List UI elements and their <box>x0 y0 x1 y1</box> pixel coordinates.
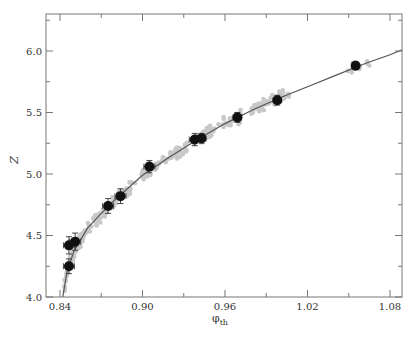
mean-point <box>64 261 74 271</box>
mean-point <box>144 162 154 172</box>
x-tick-label: 1.08 <box>379 301 401 312</box>
plot-frame <box>46 14 402 297</box>
mean-point <box>351 61 361 71</box>
x-tick-label: 0.90 <box>131 301 153 312</box>
mean-points <box>64 61 361 271</box>
mean-point <box>232 112 242 122</box>
raw-sample-dot <box>185 141 190 146</box>
y-tick-label: 5.5 <box>26 107 42 118</box>
raw-sample-dot <box>178 154 183 159</box>
raw-sample-dot <box>174 146 179 151</box>
raw-sample-dot <box>222 117 227 122</box>
raw-sample-dot <box>280 91 285 96</box>
axis-tick-labels: 0.840.900.961.021.084.04.55.05.56.0 <box>26 46 401 313</box>
raw-sample-dot <box>88 229 93 234</box>
y-axis-label: Z <box>8 156 21 165</box>
raw-sample-dot <box>367 63 372 68</box>
raw-sample-dot <box>94 223 99 228</box>
x-tick-label: 1.02 <box>296 301 318 312</box>
x-tick-label: 0.84 <box>49 301 71 312</box>
scatter-chart: 0.840.900.961.021.084.04.55.05.56.0 Z φt… <box>0 0 415 339</box>
raw-sample-dot <box>261 97 266 102</box>
raw-sample-dot <box>207 135 212 140</box>
y-tick-label: 5.0 <box>26 169 42 180</box>
y-tick-label: 4.0 <box>26 292 42 303</box>
y-tick-label: 6.0 <box>26 46 42 57</box>
mean-point <box>197 133 207 143</box>
raw-sample-dot <box>146 173 151 178</box>
x-tick-label: 0.96 <box>214 301 236 312</box>
axis-ticks <box>46 14 402 297</box>
mean-point <box>70 237 80 247</box>
raw-sample-cloud <box>62 59 372 293</box>
mean-point <box>272 95 282 105</box>
mean-point <box>116 191 126 201</box>
fit-curve <box>63 50 403 297</box>
y-tick-label: 4.5 <box>26 230 42 241</box>
mean-point <box>103 201 113 211</box>
error-bars <box>63 62 358 274</box>
x-axis-label: φth <box>212 312 228 327</box>
